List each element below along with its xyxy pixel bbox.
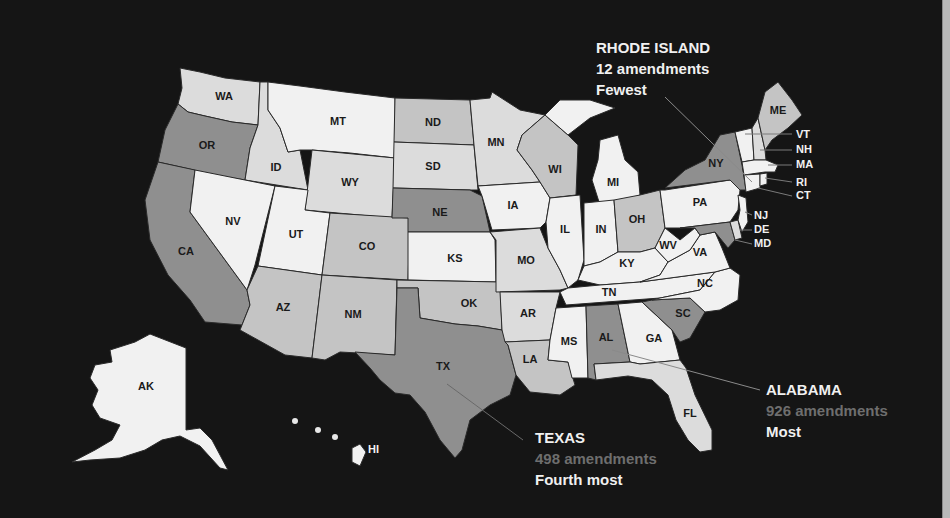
label-ak: AK: [138, 380, 154, 392]
label-mt: MT: [330, 115, 346, 127]
label-de: DE: [754, 223, 769, 235]
label-tx: TX: [436, 360, 451, 372]
callout-texas-count: 498 amendments: [535, 448, 657, 469]
callout-rhode-island-name: RHODE ISLAND: [596, 37, 710, 58]
state-ma: [742, 160, 778, 175]
label-nd: ND: [425, 116, 441, 128]
label-sc: SC: [675, 307, 690, 319]
label-ms: MS: [561, 335, 578, 347]
label-vt: VT: [796, 128, 810, 140]
label-wa: WA: [215, 90, 233, 102]
label-or: OR: [199, 139, 216, 151]
callout-texas-rank: Fourth most: [535, 469, 657, 490]
label-ut: UT: [289, 228, 304, 240]
label-ga: GA: [646, 332, 663, 344]
label-pa: PA: [693, 196, 708, 208]
state-ak: [72, 334, 228, 470]
label-nh: NH: [796, 143, 812, 155]
label-nj: NJ: [754, 209, 768, 221]
label-wy: WY: [341, 176, 359, 188]
label-wv: WV: [659, 239, 677, 251]
label-co: CO: [359, 240, 376, 252]
label-va: VA: [693, 246, 708, 258]
label-ca: CA: [178, 245, 194, 257]
label-me: ME: [770, 104, 787, 116]
label-fl: FL: [683, 407, 697, 419]
label-id: ID: [271, 161, 282, 173]
label-hi: HI: [368, 443, 379, 455]
label-in: IN: [596, 223, 607, 235]
state-hi-island: [292, 418, 298, 424]
state-hi-big: [352, 444, 366, 466]
label-ky: KY: [619, 257, 635, 269]
label-il: IL: [560, 223, 570, 235]
label-md: MD: [754, 237, 771, 249]
state-hi-island: [332, 434, 338, 440]
label-nv: NV: [225, 215, 241, 227]
label-ar: AR: [520, 307, 536, 319]
label-ks: KS: [447, 252, 462, 264]
state-mi: [592, 135, 640, 205]
label-la: LA: [523, 353, 538, 365]
label-ok: OK: [461, 297, 478, 309]
label-mo: MO: [517, 254, 535, 266]
label-nm: NM: [344, 308, 361, 320]
label-wi: WI: [548, 163, 561, 175]
label-oh: OH: [629, 213, 646, 225]
callout-texas: TEXAS 498 amendments Fourth most: [535, 427, 657, 490]
callout-rhode-island-count: 12 amendments: [596, 58, 710, 79]
callout-texas-name: TEXAS: [535, 427, 657, 448]
callout-rhode-island-rank: Fewest: [596, 79, 710, 100]
label-nc: NC: [697, 277, 713, 289]
label-ny: NY: [708, 157, 724, 169]
label-mn: MN: [487, 136, 504, 148]
callout-alabama-name: ALABAMA: [766, 379, 888, 400]
label-sd: SD: [425, 160, 440, 172]
label-tn: TN: [602, 286, 617, 298]
callout-alabama-rank: Most: [766, 421, 888, 442]
label-ia: IA: [508, 199, 519, 211]
label-ri: RI: [796, 176, 807, 188]
label-al: AL: [599, 331, 614, 343]
us-map-figure: .lightest { fill: #f1f1f1; } .light { fi…: [0, 0, 950, 518]
callout-alabama: ALABAMA 926 amendments Most: [766, 379, 888, 442]
page-edge-strip: [942, 0, 950, 518]
label-ne: NE: [432, 206, 447, 218]
label-mi: MI: [607, 176, 619, 188]
label-ct: CT: [796, 189, 811, 201]
label-az: AZ: [276, 301, 291, 313]
callout-rhode-island: RHODE ISLAND 12 amendments Fewest: [596, 37, 710, 100]
state-hi-island: [315, 427, 321, 433]
state-ny: [665, 132, 746, 190]
state-ri: [760, 173, 767, 186]
callout-alabama-count: 926 amendments: [766, 400, 888, 421]
label-ma: MA: [796, 158, 813, 170]
